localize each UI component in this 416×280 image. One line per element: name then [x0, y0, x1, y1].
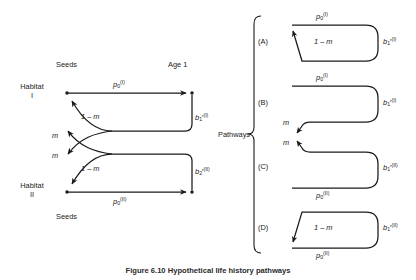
panel-a-top-label-sup: (I) [323, 11, 328, 17]
panel-a-inner-label: 1 – m [314, 38, 332, 47]
label-p0-habitat-i-sup: (I) [120, 79, 125, 85]
edge-migrate-m-i-to-ii [68, 131, 112, 154]
label-migrate-lower: m [52, 152, 58, 161]
panel-b-right-label-sup: (I) [391, 97, 396, 103]
panel-b-right-label: b1′(I) [383, 97, 396, 107]
row-label-habitat-ii: Habitat II [8, 182, 56, 199]
panel-c-bottom-label-sup: (II) [323, 190, 329, 196]
panel-c-in-arrow [297, 141, 366, 152]
panel-c-right-loop [366, 152, 378, 188]
label-b1-prime-habitat-i-sup: (I) [203, 112, 208, 118]
panel-d-inner-label: 1 – m [314, 224, 332, 233]
figure-root: Seeds Age 1 Habitat I Habitat II Seeds p… [0, 0, 416, 280]
label-b1-prime-habitat-i: b1′(I) [195, 112, 208, 122]
panel-d-right-label: b1′(II) [383, 222, 398, 232]
row-label-habitat-ii-line1: Habitat [20, 181, 43, 190]
panel-d-right-label-sup: (II) [391, 222, 397, 228]
edge-migrate-m-ii-to-i [68, 131, 112, 154]
panel-d-bottom-label: p0(II) [316, 250, 329, 260]
pathways-panel: Pathways [218, 0, 416, 266]
panel-a-right-label: b1′(I) [383, 36, 396, 46]
panel-d-right-loop [366, 212, 378, 248]
panel-c-right-label: b1′(II) [383, 162, 398, 172]
panel-b-top-label: p0(I) [316, 72, 328, 82]
panel-c-right-label-sup: (II) [391, 162, 397, 168]
panel-c-inner-label: m [283, 139, 289, 148]
label-migrate-upper: m [52, 132, 58, 141]
column-header-age-1: Age 1 [168, 61, 187, 70]
label-stay-habitat-i: 1 – m [81, 113, 99, 122]
row-label-habitat-ii-line2: II [30, 190, 34, 199]
label-stay-habitat-ii: 1 – m [81, 165, 99, 174]
panel-id-a: (A) [258, 38, 268, 47]
label-p0-habitat-ii-sup: (II) [120, 196, 126, 202]
panel-d-bottom-label-sup: (II) [323, 250, 329, 256]
panel-b-inner-label: m [283, 119, 289, 128]
panel-b-top-label-sup: (I) [323, 72, 328, 78]
panel-b-right-loop [366, 86, 378, 122]
panel-id-c: (C) [258, 163, 268, 172]
panel-c-bottom-label: p0(II) [316, 190, 329, 200]
panel-id-d: (D) [258, 224, 268, 233]
edge-b2-prime-habitat-ii-trunk [112, 154, 192, 190]
row-label-habitat-i: Habitat I [8, 83, 56, 100]
panel-b-return-arrow [297, 122, 366, 133]
node-age1-habitat-i [190, 91, 193, 94]
row-label-habitat-i-line2: I [31, 91, 33, 100]
label-b2-prime-habitat-ii-sup: (II) [203, 166, 209, 172]
panel-id-b: (B) [258, 99, 268, 108]
label-p0-habitat-ii: p0(II) [113, 196, 126, 206]
panel-a-right-label-sup: (I) [391, 36, 396, 42]
pathways-brace [248, 16, 261, 253]
left-diagram-graph [0, 0, 220, 265]
label-p0-habitat-i: p0(I) [113, 79, 125, 89]
node-age1-habitat-ii [190, 190, 193, 193]
row-label-habitat-i-line1: Habitat [20, 82, 43, 91]
figure-caption: Figure 6.10 Hypothetical life history pa… [0, 266, 416, 275]
bottom-label-seeds: Seeds [56, 213, 77, 222]
edge-b1-prime-habitat-i-trunk [112, 95, 192, 131]
column-header-seeds: Seeds [56, 61, 77, 70]
panel-a-top-label: p0(I) [316, 11, 328, 21]
panel-a-right-loop [366, 25, 378, 61]
label-b2-prime-habitat-ii: b2′(II) [195, 166, 210, 176]
